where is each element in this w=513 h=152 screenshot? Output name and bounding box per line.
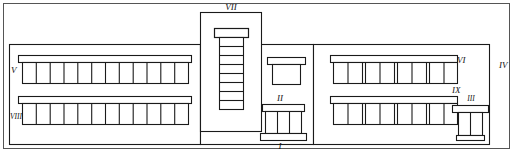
right-upper-window-band xyxy=(334,63,458,84)
callout-label-IV: IV xyxy=(498,60,509,70)
central-tower xyxy=(201,13,262,132)
right-upper-lintel xyxy=(331,56,458,63)
left-upper-lintel xyxy=(19,56,192,63)
left-lower-lintel xyxy=(19,97,192,104)
main-entrance-plinth xyxy=(261,134,307,141)
elevation-drawing: V VIII VII II I VI IX III IV xyxy=(0,0,513,152)
tower-cap xyxy=(215,29,249,38)
callout-label-VIII: VIII xyxy=(10,112,23,121)
main-entrance-lintel xyxy=(263,105,305,112)
main-entrance-body xyxy=(266,112,302,134)
entrance-canopy-body xyxy=(273,65,301,85)
right-lower-window-band xyxy=(334,104,458,125)
callout-label-IX: IX xyxy=(451,85,461,95)
side-entrance-plinth xyxy=(457,136,485,141)
entrance-canopy-slab xyxy=(268,58,306,65)
right-lower-lintel xyxy=(331,97,458,104)
callout-label-III: III xyxy=(466,94,475,103)
elevation-figure: V VIII VII II I VI IX III IV xyxy=(0,0,513,152)
callout-label-VI: VI xyxy=(457,55,466,65)
side-entrance-lintel xyxy=(453,106,489,113)
callout-label-VII: VII xyxy=(225,2,237,12)
left-wing xyxy=(10,45,201,145)
callout-label-II: II xyxy=(276,93,284,103)
